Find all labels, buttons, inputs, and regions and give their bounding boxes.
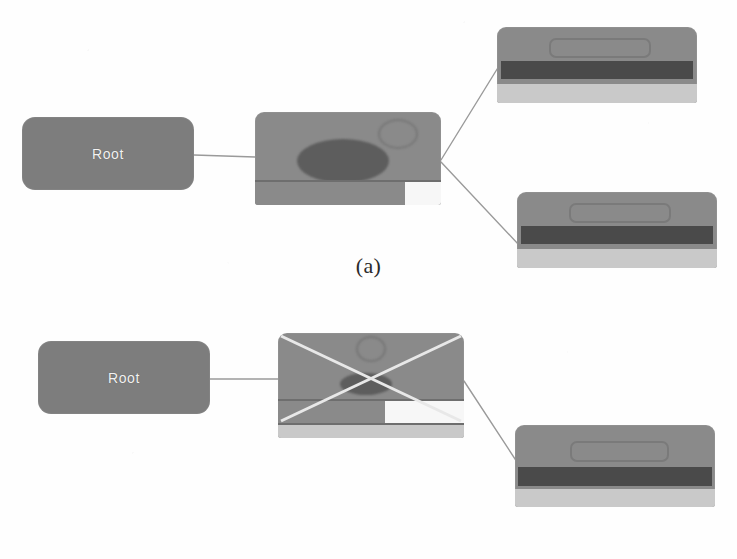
node-mid-a-body [255, 112, 441, 205]
dark-text-band [521, 226, 713, 244]
small-circle-icon [378, 119, 418, 149]
pill-outline-icon [569, 203, 671, 223]
node-child-top-a[interactable] [497, 27, 697, 103]
node-mid-b-body [278, 333, 464, 438]
node-root-a-label: Root [92, 146, 124, 162]
hero-ellipse-icon [297, 139, 389, 183]
panel-a: Root [0, 0, 737, 300]
node-mid-a[interactable] [255, 112, 441, 205]
pill-outline-icon [570, 441, 669, 462]
second-footer-strip [278, 425, 464, 438]
node-mid-b[interactable] [278, 333, 464, 438]
light-footer-strip [515, 489, 715, 507]
node-root-b-label: Root [108, 370, 140, 386]
node-root-a[interactable]: Root [22, 117, 194, 190]
light-footer-strip [497, 84, 697, 103]
dark-text-band [518, 467, 712, 486]
small-circle-icon [356, 336, 386, 362]
footer-white-swatch [385, 401, 464, 423]
node-child-top-a-body [497, 27, 697, 103]
panel-b: Root [0, 300, 737, 559]
hero-ellipse-icon [340, 373, 392, 395]
node-child-b[interactable] [515, 425, 715, 507]
pill-outline-icon [549, 38, 651, 58]
node-child-b-body [515, 425, 715, 507]
figure-canvas: Root [0, 0, 737, 559]
dark-text-band [501, 61, 693, 79]
footer-white-swatch [405, 182, 441, 205]
panel-a-caption: (a) [0, 253, 737, 279]
node-root-b[interactable]: Root [38, 341, 210, 414]
